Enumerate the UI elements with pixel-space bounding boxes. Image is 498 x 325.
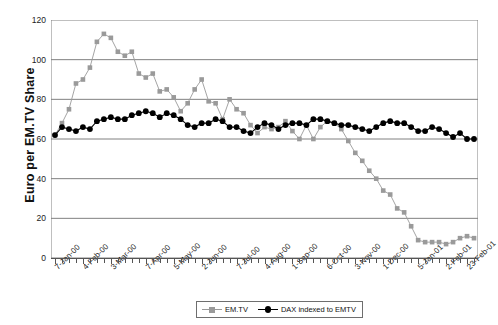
x-tick-mark: [369, 259, 370, 263]
x-tick-mark: [118, 259, 119, 263]
x-tick-mark: [376, 259, 377, 263]
x-tick-mark: [202, 259, 203, 264]
x-tick-mark: [341, 259, 342, 263]
x-tick-mark: [355, 259, 356, 264]
x-tick-mark: [188, 259, 189, 263]
legend-label-emtv: EM.TV: [225, 305, 248, 314]
x-tick-mark: [362, 259, 363, 263]
x-tick-mark: [209, 259, 210, 263]
x-tick-mark: [460, 259, 461, 263]
x-tick-mark: [313, 259, 314, 263]
x-tick-mark: [411, 259, 412, 263]
x-tick-mark: [474, 259, 475, 263]
x-tick-mark: [425, 259, 426, 263]
x-tick-mark: [432, 259, 433, 263]
x-tick-mark: [76, 259, 77, 263]
circle-marker-icon: [258, 306, 278, 314]
x-tick-mark: [174, 259, 175, 264]
x-tick-mark: [160, 259, 161, 263]
legend-label-dax: DAX indexed to EMTV: [281, 305, 356, 314]
x-tick-mark: [132, 259, 133, 263]
x-tick-mark: [327, 259, 328, 264]
x-tick-mark: [90, 259, 91, 263]
x-tick-mark: [181, 259, 182, 263]
x-tick-mark: [258, 259, 259, 263]
x-tick-mark: [125, 259, 126, 263]
chart-legend: EM.TV DAX indexed to EMTV: [196, 301, 363, 318]
x-tick-label: 1-Sep-00: [290, 242, 320, 272]
legend-item-emtv: EM.TV: [202, 305, 248, 314]
x-tick-label: 23-Feb-01: [465, 239, 497, 271]
x-tick-mark: [467, 259, 468, 264]
x-tick-mark: [383, 259, 384, 264]
x-tick-label: 3-Mar-00: [109, 242, 138, 271]
x-tick-mark: [69, 259, 70, 263]
x-tick-label: 4-Aug-00: [263, 242, 293, 272]
x-tick-label: 3-Nov-00: [353, 242, 383, 272]
x-tick-mark: [439, 259, 440, 263]
x-tick-mark: [306, 259, 307, 263]
x-tick-mark: [278, 259, 279, 263]
x-tick-mark: [285, 259, 286, 263]
x-tick-label: 4-Feb-00: [81, 242, 110, 271]
x-tick-mark: [237, 259, 238, 264]
x-tick-mark: [334, 259, 335, 263]
x-tick-mark: [104, 259, 105, 263]
x-tick-mark: [453, 259, 454, 263]
x-tick-mark: [146, 259, 147, 264]
x-tick-mark: [139, 259, 140, 263]
square-marker-icon: [202, 306, 222, 314]
x-tick-mark: [299, 259, 300, 263]
x-tick-mark: [292, 259, 293, 264]
x-tick-label: 1-Dec-00: [381, 242, 411, 272]
x-tick-mark: [271, 259, 272, 263]
x-tick-mark: [446, 259, 447, 264]
x-tick-mark: [223, 259, 224, 263]
x-tick-mark: [111, 259, 112, 264]
legend-item-dax: DAX indexed to EMTV: [258, 305, 356, 314]
x-tick-mark: [167, 259, 168, 263]
x-tick-mark: [153, 259, 154, 263]
x-tick-mark: [348, 259, 349, 263]
x-tick-mark: [397, 259, 398, 263]
x-tick-mark: [97, 259, 98, 263]
x-tick-mark: [251, 259, 252, 263]
x-tick-mark: [230, 259, 231, 263]
x-tick-mark: [265, 259, 266, 264]
x-tick-mark: [62, 259, 63, 263]
x-tick-mark: [320, 259, 321, 263]
x-tick-mark: [216, 259, 217, 263]
x-tick-mark: [55, 259, 56, 264]
x-tick-mark: [390, 259, 391, 263]
x-tick-mark: [195, 259, 196, 263]
x-tick-mark: [418, 259, 419, 264]
x-tick-mark: [244, 259, 245, 263]
x-tick-mark: [83, 259, 84, 264]
x-tick-mark: [404, 259, 405, 263]
x-tick-label: 5-May-00: [172, 241, 202, 271]
